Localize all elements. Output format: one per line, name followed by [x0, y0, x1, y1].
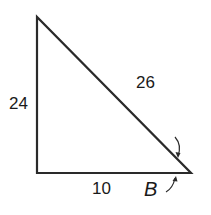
side-label-vertical: 24: [9, 95, 28, 112]
side-label-hypotenuse: 26: [136, 74, 155, 91]
arrowhead-lower-icon: [173, 176, 178, 182]
side-label-horizontal: 10: [92, 180, 111, 197]
angle-label-b: B: [144, 179, 157, 199]
right-triangle: [37, 17, 191, 173]
